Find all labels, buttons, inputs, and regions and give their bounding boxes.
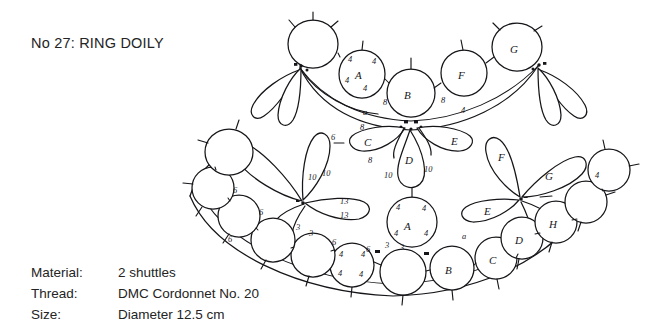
petal-upper-e: E	[417, 126, 472, 151]
petal-left-13: 13 13	[305, 197, 369, 220]
petal-left-count-10a: 10	[308, 173, 317, 182]
picot-count-a-ur: 4	[372, 57, 376, 66]
chain-count-8-right: 8	[441, 96, 446, 105]
picot-bottom-4-ll: 4	[338, 269, 342, 278]
chain-count-4-upper-right: 4	[461, 106, 465, 115]
petal-left-tall: 10 10 6	[302, 133, 336, 200]
picot-count-a-lr: 4	[363, 84, 367, 93]
spec-label-size: Size:	[31, 307, 118, 322]
chain-count-6-d: 6	[233, 186, 238, 195]
spec-value-size: Diameter 12.5 cm	[118, 307, 225, 322]
ring-lower-right-2	[588, 140, 639, 191]
ring-label-upper-g: G	[510, 43, 518, 55]
ring-label-upper-b: B	[404, 89, 411, 101]
picot-count-a-ll: 4	[345, 76, 349, 85]
spec-label-material: Material:	[31, 265, 118, 280]
spec-value-thread: DMC Cordonnet No. 20	[118, 286, 259, 301]
pattern-specifications: Material: 2 shuttles Thread: DMC Cordonn…	[31, 265, 259, 326]
petal-left-count-10b: 10	[322, 169, 331, 178]
spec-label-thread: Thread:	[31, 286, 118, 301]
petal-right-f: F	[486, 138, 520, 197]
picot-bottom-4-lr: 4	[359, 270, 363, 279]
petal-label-d: D	[404, 154, 413, 166]
ring-lower-left-5	[198, 120, 253, 175]
petal-c-count-bottom: 8	[368, 156, 373, 165]
petal-upper-c: C	[350, 126, 405, 151]
picot-lower-a-ll: 4	[394, 229, 398, 238]
ring-label-lower-d: D	[514, 234, 523, 246]
petal-label-e: E	[450, 135, 458, 147]
chain-count-6-b: 6	[332, 238, 337, 247]
ring-upper-f: F	[441, 40, 487, 96]
spec-value-material: 2 shuttles	[118, 265, 176, 280]
marker-a-upper: a	[363, 108, 367, 117]
petal-label-f-lower: F	[497, 151, 505, 163]
picot-bottom-4-ul: 4	[339, 250, 343, 259]
petal-d-count-right: 10	[424, 165, 433, 174]
picot-count-a-ul: 4	[348, 55, 352, 64]
spec-row-thread: Thread: DMC Cordonnet No. 20	[31, 286, 259, 307]
ring-upper-g: G	[492, 23, 542, 71]
chain-count-3-b: 3	[399, 243, 404, 252]
petal-label-c: C	[364, 136, 372, 148]
picot-lower-a-ur: 4	[422, 204, 426, 213]
petal-13-count-a: 13	[340, 197, 348, 206]
page-canvas: No 27: RING DOILY A 4 4 4 4	[0, 0, 670, 326]
chain-count-6-c: 6	[259, 208, 264, 217]
picot-lower-a-lr: 4	[424, 229, 428, 238]
chain-count-3-d: 3	[308, 229, 313, 238]
spec-row-size: Size: Diameter 12.5 cm	[31, 307, 259, 326]
picot-lower-a-ul: 4	[396, 203, 400, 212]
ring-top-unlabeled	[288, 12, 338, 68]
picot-bottom-4-ur: 4	[361, 250, 365, 259]
ring-bottom-unlabeled	[380, 249, 426, 305]
petal-left-count-6: 6	[331, 133, 336, 142]
ring-label-upper-f: F	[457, 69, 465, 81]
ring-upper-a: A 4 4 4 4	[339, 41, 385, 98]
petal-right-e: E	[462, 199, 519, 222]
petal-d-count-left: 10	[384, 171, 393, 180]
ring-label-lower-b: B	[445, 264, 452, 276]
marker-a-lower: a	[462, 232, 466, 241]
ring-lower-left-1	[291, 233, 335, 286]
ring-lower-a: A 4 4 4 4	[387, 188, 437, 247]
chain-count-4-right: 4	[595, 171, 599, 180]
ring-label-lower-a: A	[403, 220, 411, 232]
petal-13-count-b: 13	[340, 211, 348, 220]
ring-label-lower-c: C	[489, 254, 497, 266]
ring-label-upper-a: A	[354, 69, 362, 81]
chain-count-3-a: 3	[384, 241, 389, 250]
chain-count-3-c: 3	[295, 223, 300, 232]
ring-upper-b: B	[387, 58, 435, 117]
ring-label-lower-h: H	[548, 218, 558, 230]
petal-label-e-lower: E	[483, 205, 491, 217]
spec-row-material: Material: 2 shuttles	[31, 265, 259, 286]
petal-label-g-lower: G	[545, 170, 553, 182]
